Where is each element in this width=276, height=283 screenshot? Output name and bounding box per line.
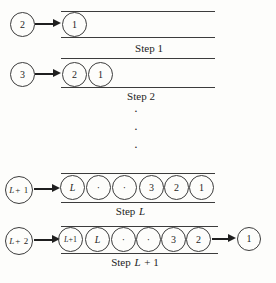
feeder-circle: L+ 2 xyxy=(5,227,33,255)
arrow-head-icon xyxy=(228,234,236,242)
queue-circle: 3 xyxy=(139,175,164,200)
queue-circle: L xyxy=(60,175,85,200)
queue-circle: · xyxy=(111,227,136,252)
circle-label: · xyxy=(123,183,126,193)
queue-circle: · xyxy=(86,175,111,200)
circle-label: + 2 xyxy=(15,237,28,246)
lane-bottom-line xyxy=(61,202,215,203)
lane-bottom-line xyxy=(61,253,218,254)
circle-label: 2 xyxy=(174,183,179,193)
queue-steps-diagram: 2 1 Step 1 3 2 1 Step 2 · · · L+ 1 L · ·… xyxy=(0,0,276,283)
circle-label: 3 xyxy=(20,70,25,80)
circle-label: · xyxy=(122,235,125,245)
arrow-head-icon xyxy=(53,19,61,27)
queue-circle: 1 xyxy=(189,175,214,200)
step-label: Step 1 xyxy=(108,42,192,55)
arrow-shaft xyxy=(35,73,53,75)
circle-label-italic: L xyxy=(70,183,76,193)
queue-circle: 2 xyxy=(186,227,211,252)
lane-bottom-line xyxy=(61,37,215,38)
circle-label: 1 xyxy=(98,70,103,80)
circle-label-italic: L xyxy=(9,186,14,195)
circle-label: 2 xyxy=(20,20,25,30)
circle-label-italic: L xyxy=(9,237,14,246)
queue-circle: · xyxy=(112,175,137,200)
step-label: Step L + 1 xyxy=(93,256,177,269)
circle-label: 2 xyxy=(72,70,77,80)
ellipsis-dot: · xyxy=(132,108,140,114)
circle-label: +1 xyxy=(68,236,77,244)
lane-top-line xyxy=(61,58,215,59)
arrow-head-icon xyxy=(53,69,61,77)
step-label: Step 2 xyxy=(100,90,184,103)
output-circle: 1 xyxy=(237,227,261,251)
queue-circle: 2 xyxy=(62,62,87,87)
feeder-circle: L+ 1 xyxy=(5,176,33,204)
circle-label-italic: L xyxy=(95,235,101,245)
feeder-circle: 3 xyxy=(10,62,35,87)
queue-circle: · xyxy=(136,227,161,252)
step-label: Step L xyxy=(89,205,173,218)
circle-label: + 1 xyxy=(15,186,28,195)
circle-label: 2 xyxy=(196,235,201,245)
ellipsis-dot: · xyxy=(132,126,140,132)
circle-label: · xyxy=(97,183,100,193)
arrow-head-icon xyxy=(52,184,60,192)
arrow-shaft xyxy=(35,23,53,25)
ellipsis-dot: · xyxy=(132,144,140,150)
lane-top-line xyxy=(61,11,215,12)
queue-circle: 1 xyxy=(88,62,113,87)
queue-circle: 3 xyxy=(161,227,186,252)
circle-label: 1 xyxy=(72,20,77,30)
queue-circle: L+1 xyxy=(58,227,83,252)
arrow-shaft xyxy=(34,239,52,241)
lane-bottom-line xyxy=(61,87,215,88)
queue-circle: 1 xyxy=(62,12,87,37)
circle-label: 1 xyxy=(199,183,204,193)
arrow-shaft xyxy=(212,238,228,240)
queue-circle: L xyxy=(85,227,110,252)
circle-label: 3 xyxy=(171,235,176,245)
queue-circle: 2 xyxy=(164,175,189,200)
arrow-shaft xyxy=(34,188,52,190)
circle-label: 1 xyxy=(247,234,252,244)
circle-label: · xyxy=(147,235,150,245)
feeder-circle: 2 xyxy=(10,12,35,37)
lane-top-line xyxy=(61,173,215,174)
circle-label: 3 xyxy=(149,183,154,193)
